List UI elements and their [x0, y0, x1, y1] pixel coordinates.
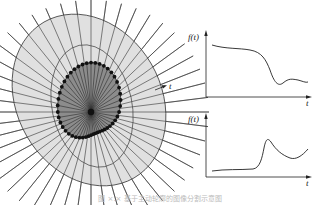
contour-point	[81, 136, 85, 140]
contour-point	[117, 110, 121, 114]
contour-point	[61, 125, 65, 129]
plot-2-ylabel: f(t)	[188, 114, 199, 124]
center-point	[88, 109, 94, 115]
contour-point	[117, 86, 121, 90]
contour-point	[56, 104, 60, 108]
contour-point	[63, 80, 67, 84]
contour-point	[110, 70, 114, 74]
contour-point	[59, 121, 63, 125]
contour-point	[115, 80, 119, 84]
plot-1-ylabel: f(t)	[188, 32, 199, 42]
contour-point	[67, 132, 71, 136]
contour-point	[57, 97, 61, 101]
contour-point	[78, 136, 82, 140]
contour-point	[60, 85, 64, 89]
contour-point	[73, 67, 77, 71]
contour-point	[66, 75, 70, 79]
contour-point	[81, 63, 85, 67]
contour-point	[113, 118, 117, 122]
figure-caption: 图 ×.× 基于主动轮廓的图像分割示意图	[0, 193, 320, 203]
ray-label: t	[169, 81, 172, 91]
contour-point	[93, 61, 97, 65]
contour-point	[116, 115, 120, 119]
contour-point	[106, 67, 110, 71]
contour-point	[102, 64, 106, 68]
contour-point	[70, 134, 74, 138]
contour-point	[77, 65, 81, 69]
contour-point	[89, 61, 93, 65]
contour-point	[57, 116, 61, 120]
plot-2-xlabel: t	[306, 178, 309, 188]
plot-1-xlabel: t	[306, 98, 309, 108]
contour-point	[98, 62, 102, 66]
plot-2-curve	[212, 140, 308, 171]
contour-point	[113, 75, 117, 79]
plot-1-curve	[212, 45, 308, 84]
plot-1: f(t) t	[188, 30, 312, 108]
contour-point	[74, 135, 78, 139]
contour-point	[58, 91, 62, 95]
figure: t f(t) t f(t) t	[0, 0, 320, 205]
plot-2-y-arrow	[204, 113, 207, 119]
contour-point	[118, 92, 122, 96]
contour-point	[119, 98, 123, 102]
contour-point	[56, 110, 60, 114]
contour-point	[85, 61, 89, 65]
contour-point	[64, 129, 68, 133]
contour-point	[118, 104, 122, 108]
plot-1-y-arrow	[204, 30, 207, 36]
plot-2: f(t) t	[188, 113, 312, 188]
contour-point	[69, 71, 73, 75]
